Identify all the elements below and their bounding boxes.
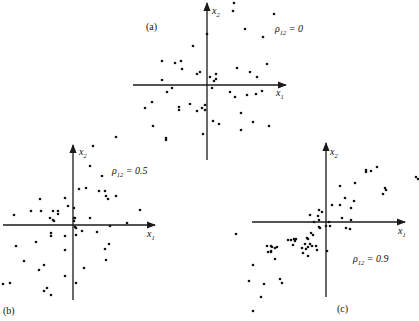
data-point <box>274 258 277 261</box>
data-point <box>43 290 46 293</box>
data-point <box>290 239 293 242</box>
data-point <box>273 13 276 16</box>
panel-label: (c) <box>337 303 348 315</box>
data-point <box>105 195 108 198</box>
data-point <box>75 227 78 230</box>
data-point <box>64 249 67 252</box>
data-point <box>107 198 110 201</box>
data-point <box>262 36 265 39</box>
data-point <box>2 283 5 286</box>
data-point <box>311 245 314 248</box>
correlation-annotation: ρ12 = 0.5 <box>111 165 148 178</box>
data-point <box>23 260 26 263</box>
data-point <box>115 136 118 139</box>
data-point <box>319 227 322 230</box>
data-point <box>64 235 67 238</box>
data-point <box>249 71 252 74</box>
data-point <box>310 232 313 235</box>
data-point <box>344 197 347 200</box>
data-point <box>339 185 342 188</box>
data-point <box>215 78 218 81</box>
data-point <box>192 45 195 48</box>
data-point <box>75 282 78 285</box>
data-point <box>260 296 263 299</box>
data-point <box>83 267 86 270</box>
panel-label: (a) <box>146 21 157 33</box>
data-point <box>189 103 192 106</box>
data-point <box>345 227 348 230</box>
data-point <box>101 175 104 178</box>
data-point <box>271 246 274 249</box>
data-point <box>307 238 310 241</box>
data-point <box>353 200 356 203</box>
data-point <box>139 209 142 212</box>
data-point <box>108 243 111 246</box>
data-point <box>199 71 202 74</box>
data-point <box>204 104 207 107</box>
data-point <box>326 250 329 253</box>
data-point <box>212 120 215 123</box>
data-point <box>196 73 199 76</box>
data-point <box>98 190 101 193</box>
data-point <box>328 221 331 224</box>
data-point <box>180 60 183 63</box>
data-point <box>104 248 107 251</box>
data-point <box>38 269 41 272</box>
data-point <box>318 219 321 222</box>
data-point <box>64 197 67 200</box>
data-point <box>109 225 112 228</box>
data-point <box>35 241 38 244</box>
data-point <box>96 231 99 234</box>
data-point <box>325 225 328 228</box>
data-point <box>204 109 207 112</box>
x-axis-label: x1 <box>146 228 155 241</box>
data-point <box>161 60 164 63</box>
data-point <box>304 243 307 246</box>
data-point <box>115 195 118 198</box>
data-point <box>53 220 56 223</box>
data-point <box>57 213 60 216</box>
data-point <box>174 62 177 65</box>
data-point <box>9 282 12 285</box>
data-point <box>339 204 342 207</box>
data-point <box>307 255 310 258</box>
data-point <box>281 282 284 285</box>
data-point <box>73 220 76 223</box>
data-point <box>233 2 236 5</box>
data-point <box>313 221 316 224</box>
data-point <box>201 107 204 110</box>
data-point <box>75 234 78 237</box>
data-point <box>263 283 266 286</box>
data-point <box>40 210 43 213</box>
data-point <box>255 93 258 96</box>
data-point <box>246 94 249 97</box>
data-point <box>252 121 255 124</box>
data-point <box>152 125 155 128</box>
data-point <box>161 79 164 82</box>
data-point <box>144 107 147 110</box>
data-point <box>248 280 251 283</box>
data-point <box>196 110 199 113</box>
data-point <box>266 245 269 248</box>
data-point <box>287 239 290 242</box>
data-point <box>234 96 237 99</box>
data-point <box>312 234 315 237</box>
data-point <box>178 106 181 109</box>
panel-label: (b) <box>3 305 15 317</box>
data-point <box>209 76 212 79</box>
data-point <box>252 264 255 267</box>
x-axis-label: x1 <box>275 87 284 100</box>
data-point <box>316 249 319 252</box>
x-axis-label: x1 <box>397 225 406 238</box>
data-point <box>39 198 42 201</box>
data-point <box>165 139 168 142</box>
data-point <box>229 91 232 94</box>
data-point <box>349 228 352 231</box>
y-axis-label: x2 <box>211 5 220 18</box>
data-point <box>302 252 305 255</box>
data-point <box>331 204 334 207</box>
data-point <box>73 207 76 210</box>
data-point <box>240 112 243 115</box>
data-point <box>365 171 368 174</box>
data-point <box>181 68 184 71</box>
